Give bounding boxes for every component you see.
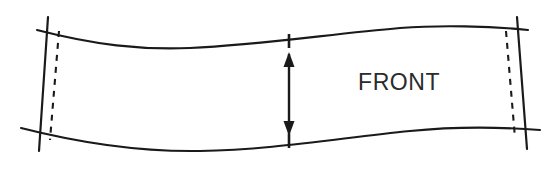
front-label: FRONT <box>358 69 440 95</box>
pattern-drawing-canvas: FRONT <box>0 0 556 172</box>
pattern-piece-diagram: FRONT <box>0 0 556 172</box>
